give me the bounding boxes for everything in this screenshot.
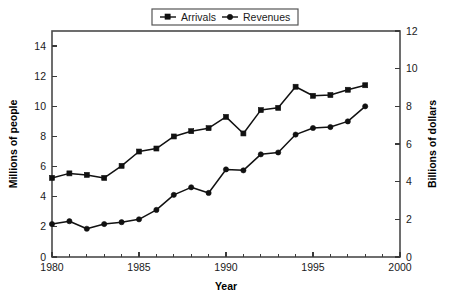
data-point [171,134,176,139]
data-point [328,124,333,129]
data-point [258,108,263,113]
x-tick-label: 1980 [40,261,64,273]
data-point [67,219,72,224]
data-point [154,207,159,212]
data-point [310,125,315,130]
x-tick-label: 1985 [127,261,151,273]
chart-container: 19801985199019952000 02468101214 0246810… [0,0,449,300]
data-point [50,175,55,180]
data-point [189,185,194,190]
data-point [67,171,72,176]
y-tick-label-left: 6 [40,160,46,172]
x-tick-label: 1995 [301,261,325,273]
data-point [102,221,107,226]
data-point [328,93,333,98]
x-tick-label: 2000 [388,261,412,273]
data-point [171,192,176,197]
y-tick-label-left: 10 [34,100,46,112]
data-point [363,104,368,109]
y-tick-label-left: 12 [34,70,46,82]
y-axis-right-title: Billions of dollars [426,100,438,188]
y-tick-label-right: 6 [406,138,412,150]
data-point [84,226,89,231]
x-tick-label: 1990 [214,261,238,273]
legend: Arrivals Revenues [152,9,298,25]
data-point [293,132,298,137]
data-point [241,168,246,173]
data-point [258,152,263,157]
x-axis-title: Year [215,280,237,292]
legend-label-revenues: Revenues [243,11,290,23]
legend-label-arrivals: Arrivals [181,11,216,23]
data-point [345,119,350,124]
data-point [206,126,211,131]
y-tick-label-left: 0 [40,251,46,263]
data-point [154,146,159,151]
data-point [49,221,54,226]
y-tick-label-left: 2 [40,220,46,232]
legend-marker-revenues [227,14,232,19]
data-point [119,220,124,225]
x-axis-tick-labels: 19801985199019952000 [40,261,412,273]
data-point [119,163,124,168]
y-tick-label-left: 14 [34,40,46,52]
y-tick-label-right: 4 [406,175,412,187]
y-axis-left-tick-labels: 02468101214 [34,40,46,263]
data-point [136,217,141,222]
data-point [84,172,89,177]
legend-marker-arrivals [165,14,170,19]
y-tick-label-right: 0 [406,251,412,263]
data-point [206,190,211,195]
y-tick-label-right: 8 [406,100,412,112]
y-tick-label-right: 10 [406,62,418,74]
data-point [293,84,298,89]
data-point [276,150,281,155]
data-point [223,167,228,172]
data-point [241,131,246,136]
y-axis-right-tick-labels: 024681012 [406,25,418,263]
data-point [345,87,350,92]
data-point [276,105,281,110]
data-point [189,129,194,134]
data-point [137,149,142,154]
y-axis-left-title: Millions of people [7,100,19,189]
y-tick-label-right: 12 [406,25,418,37]
line-chart: 19801985199019952000 02468101214 0246810… [0,0,449,300]
data-point [102,175,107,180]
y-tick-label-left: 8 [40,130,46,142]
data-point [311,93,316,98]
data-point [363,83,368,88]
data-point [224,114,229,119]
y-tick-label-right: 2 [406,213,412,225]
y-tick-label-left: 4 [40,190,46,202]
